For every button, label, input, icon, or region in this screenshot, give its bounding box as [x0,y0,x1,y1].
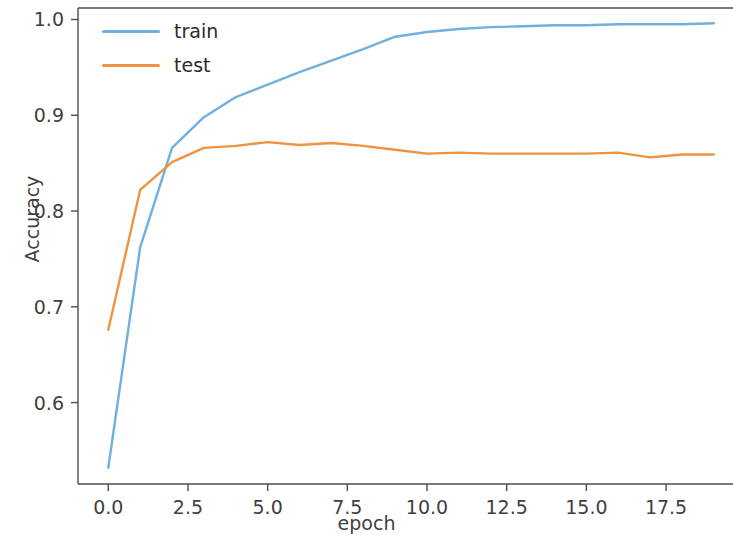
legend-swatch-test [102,64,160,67]
series-line-test [108,142,714,330]
y-tick-label: 0.6 [0,392,64,414]
matplotlib-figure: 0.60.70.80.91.0 0.02.55.07.510.012.515.0… [0,0,733,541]
y-axis-label: Accuracy [21,139,43,299]
y-tick-label: 0.7 [0,296,64,318]
legend-item-train: train [102,20,218,42]
y-tick-label: 0.9 [0,104,64,126]
chart-legend: train test [96,16,224,80]
axes-ticks [71,19,666,491]
legend-label-train: train [174,20,218,42]
legend-label-test: test [174,54,211,76]
series-line-train [108,23,714,467]
x-axis-label: epoch [0,512,733,534]
plot-canvas [0,0,733,541]
y-tick-label: 1.0 [0,8,64,30]
legend-swatch-train [102,30,160,33]
legend-item-test: test [102,54,218,76]
data-lines [108,23,714,467]
